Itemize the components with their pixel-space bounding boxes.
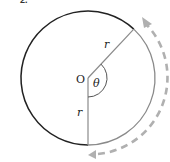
figure-label: 2.: [20, 0, 28, 5]
circle-sector-diagram: 2. O θ r r: [0, 0, 170, 162]
arrowhead-top-icon: [142, 17, 152, 28]
angle-label: θ: [93, 77, 100, 90]
radius-line-upper: [88, 29, 134, 78]
radius-label-bottom: r: [77, 106, 83, 119]
radius-label-top: r: [104, 38, 110, 51]
origin-label: O: [76, 73, 85, 86]
arrowhead-bottom-icon: [88, 150, 96, 159]
